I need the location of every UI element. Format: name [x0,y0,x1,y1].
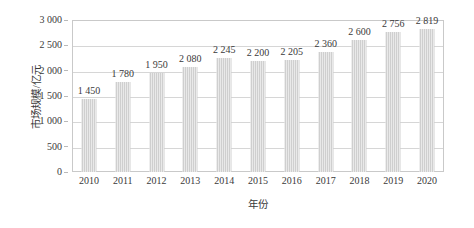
y-tick-label: 1 000 [0,116,62,126]
bar[interactable] [115,82,130,172]
bar-value-label: 2 205 [281,46,304,57]
bars-layer: 1 4501 7801 9502 0802 2452 2002 2052 360… [72,20,444,172]
bar[interactable] [284,60,299,172]
bar[interactable] [318,52,333,172]
bar-value-label: 2 600 [348,26,371,37]
x-tick-label: 2020 [417,175,437,187]
bar-value-label: 2 080 [179,53,202,64]
bar-value-label: 2 360 [314,38,337,49]
y-tick-mark [64,70,68,71]
bar[interactable] [420,29,435,172]
bar-slot: 2 205 [275,20,309,172]
bar-value-label: 2 200 [247,47,270,58]
y-tick-label: 2 000 [0,66,62,76]
bar-chart: 市场规模/亿元 05001 0001 5002 0002 5003 000 1 … [0,0,474,228]
y-tick-label: 0 [0,167,62,177]
bar-slot: 2 600 [343,20,377,172]
bar-slot: 1 780 [106,20,140,172]
bar-value-label: 1 950 [145,59,168,70]
x-tick-label: 2012 [147,175,167,187]
y-tick-mark [64,172,68,173]
y-tick-mark [64,146,68,147]
x-tick-label: 2014 [214,175,234,187]
bar[interactable] [352,40,367,172]
bar-value-label: 2 819 [416,15,439,26]
bar[interactable] [149,73,164,172]
bar[interactable] [183,67,198,172]
y-axis-tick-labels: 05001 0001 5002 0002 5003 000 [0,20,68,172]
x-tick-label: 2016 [282,175,302,187]
bar-slot: 1 450 [72,20,106,172]
bar-value-label: 2 756 [382,18,405,29]
bar-slot: 2 819 [410,20,444,172]
y-tick-mark [64,20,68,21]
bar[interactable] [386,32,401,172]
x-tick-label: 2019 [383,175,403,187]
x-axis-tick-labels: 2010201120122013201420152016201720182019… [72,175,444,189]
x-tick-label: 2010 [79,175,99,187]
bar[interactable] [217,58,232,172]
x-tick-label: 2015 [248,175,268,187]
x-tick-label: 2017 [316,175,336,187]
y-tick-label: 1 500 [0,91,62,101]
y-tick-mark [64,96,68,97]
y-tick-mark [64,121,68,122]
bar-value-label: 1 780 [111,68,134,79]
x-tick-label: 2013 [180,175,200,187]
x-tick-label: 2018 [349,175,369,187]
bar-value-label: 1 450 [78,85,101,96]
bar-slot: 2 245 [207,20,241,172]
y-tick-mark [64,45,68,46]
x-tick-label: 2011 [113,175,133,187]
y-tick-label: 2 500 [0,40,62,50]
bar-value-label: 2 245 [213,44,236,55]
bar-slot: 2 080 [173,20,207,172]
bar-slot: 2 200 [241,20,275,172]
bar-slot: 1 950 [140,20,174,172]
bar-slot: 2 360 [309,20,343,172]
y-tick-label: 3 000 [0,15,62,25]
bar-slot: 2 756 [376,20,410,172]
x-axis-title: 年份 [72,198,444,211]
bar[interactable] [250,61,265,172]
y-tick-label: 500 [0,142,62,152]
bar[interactable] [81,99,96,172]
